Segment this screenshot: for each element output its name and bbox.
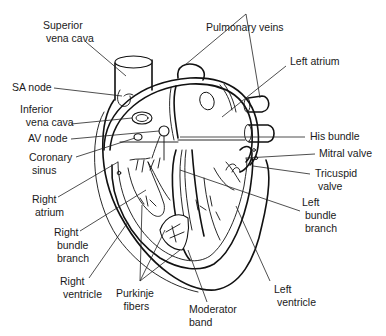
label-av-node: AV node [28,132,68,145]
label-right-ventricle: Right ventricle [60,275,102,301]
label-pulmonary-veins: Pulmonary veins [206,21,284,34]
label-left-atrium: Left atrium [290,55,340,68]
label-inferior-vena-cava: Inferior vena cava [20,103,74,129]
label-his-bundle: His bundle [310,130,360,143]
label-mitral-valve: Mitral valve [319,147,372,160]
label-sa-node: SA node [12,81,52,94]
label-purkinje-fibers: Purkinje fibers [116,287,154,313]
label-tricuspid-valve: Tricuspid valve [315,167,357,193]
leader-lines [54,14,315,302]
label-coronary-sinus: Coronary sinus [29,151,72,177]
label-right-bundle-branch: Right bundle branch [54,226,89,265]
label-superior-vena-cava: Superior vena cava [43,19,94,45]
superior-vena-cava-shape [115,56,152,100]
label-moderator-band: Moderator band [189,303,237,329]
label-left-bundle-branch: Left bundle branch [302,196,337,235]
ventricles-outline [112,158,253,269]
label-right-atrium: Right atrium [32,193,64,219]
label-left-ventricle: Left ventricle [274,283,316,309]
